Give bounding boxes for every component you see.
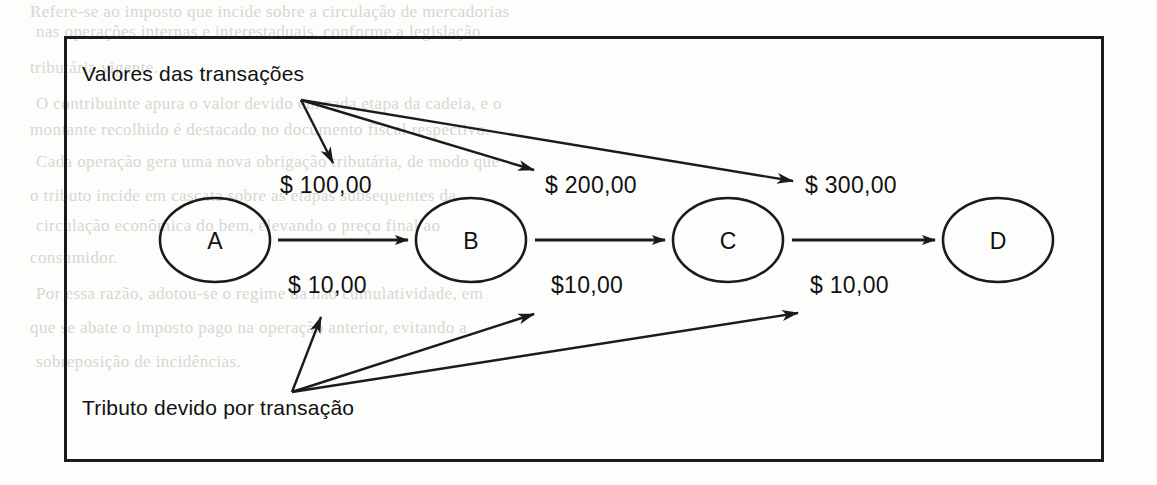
- node-label-a: A: [195, 228, 235, 255]
- tax-value-label-1: $ 10,00: [288, 272, 367, 299]
- tax-value-label-3: $ 10,00: [810, 272, 889, 299]
- node-label-c: C: [708, 228, 748, 255]
- caption-tax-due: Tributo devido por transação: [82, 396, 354, 420]
- pointer-bottom-to-tax-3: [292, 313, 798, 392]
- pointer-bottom-to-tax-1: [292, 317, 321, 392]
- transaction-value-label-2: $ 200,00: [545, 172, 637, 199]
- caption-transaction-values: Valores das transações: [82, 62, 304, 86]
- transaction-value-label-3: $ 300,00: [805, 172, 897, 199]
- node-label-d: D: [978, 228, 1018, 255]
- pointer-top-to-300: [301, 100, 793, 181]
- scanned-figure-page: Refere-se ao imposto que incide sobre a …: [0, 0, 1157, 485]
- pointer-top-to-200: [301, 100, 534, 170]
- transaction-value-label-1: $ 100,00: [280, 172, 372, 199]
- node-label-b: B: [451, 228, 491, 255]
- pointer-top-to-100: [301, 100, 333, 163]
- pointer-bottom-to-tax-2: [292, 314, 534, 392]
- tax-value-label-2: $10,00: [551, 272, 623, 299]
